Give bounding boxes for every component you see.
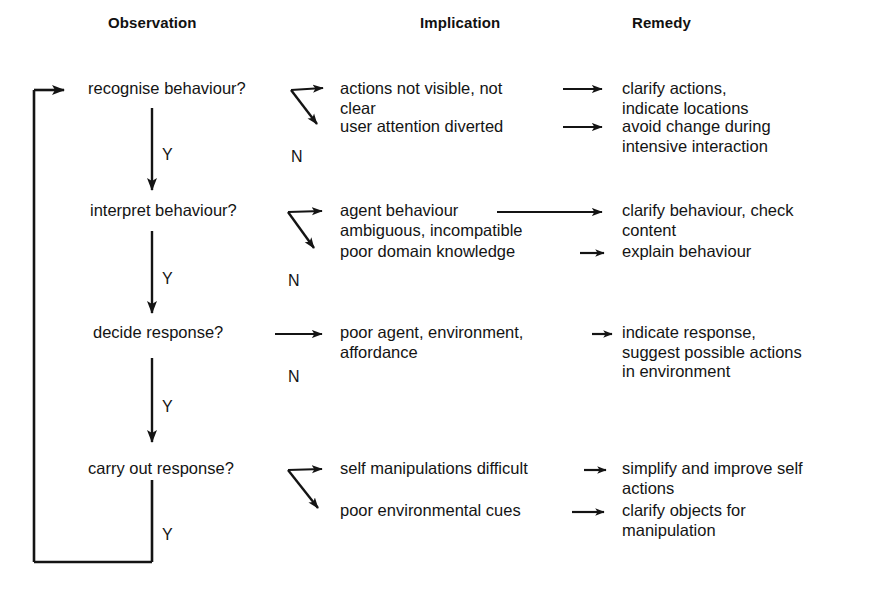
column-header-observation: Observation [108,14,197,31]
implication-carry-out-branch-1: self manipulations difficult [340,459,528,479]
branch-label-no-interpret: N [288,272,300,290]
implication-carry-out-branch-2: poor environmental cues [340,501,521,521]
interpret-fork-connector [288,211,322,248]
recognise-remedy-connectors [563,89,602,127]
carryout-remedy-connectors [572,470,606,512]
column-header-remedy: Remedy [632,14,691,31]
observation-node-carry-out[interactable]: carry out response? [88,459,234,478]
remedy-recognise-branch-2: avoid change during intensive interactio… [622,117,771,156]
branch-label-no-decide: N [288,368,300,386]
implication-decide-branch-1: poor agent, environment, affordance [340,323,523,362]
implication-recognise-branch-2: user attention diverted [340,117,503,137]
remedy-interpret-branch-2: explain behaviour [622,242,751,262]
branch-label-no-recognise: N [291,148,303,166]
observation-node-decide[interactable]: decide response? [93,323,223,342]
branch-label-yes-carry-out: Y [162,526,173,544]
diagram-canvas: Observation Implication Remedy recognise… [0,0,876,590]
branch-label-yes-recognise: Y [162,146,173,164]
carryout-fork-connector [288,469,322,508]
remedy-carry-out-branch-1: simplify and improve self actions [622,459,803,498]
remedy-interpret-branch-1: clarify behaviour, check content [622,201,794,240]
implication-interpret-branch-1: agent behaviour ambiguous, incompatible [340,201,523,240]
column-header-implication: Implication [420,14,500,31]
remedy-decide-branch-1: indicate response, suggest possible acti… [622,323,802,382]
remedy-recognise-branch-1: clarify actions, indicate locations [622,79,749,118]
observation-node-recognise[interactable]: recognise behaviour? [88,79,246,98]
recognise-fork-connector [291,88,323,124]
remedy-carry-out-branch-2: clarify objects for manipulation [622,501,746,540]
branch-label-yes-decide: Y [162,398,173,416]
implication-interpret-branch-2: poor domain knowledge [340,242,515,262]
implication-recognise-branch-1: actions not visible, not clear [340,79,502,118]
branch-label-yes-interpret: Y [162,270,173,288]
observation-node-interpret[interactable]: interpret behaviour? [90,201,237,220]
